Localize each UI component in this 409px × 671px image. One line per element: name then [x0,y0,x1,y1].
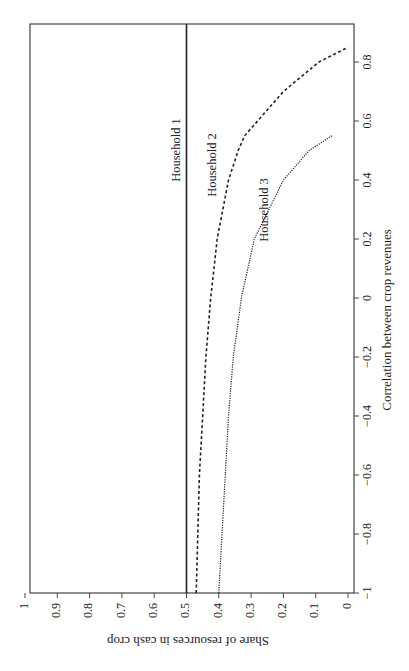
plot-frame [30,24,354,593]
share-tick-label: 0.8 [81,603,95,618]
share-tick-label: 0.6 [146,603,160,618]
series-label-household-3: Household 3 [257,178,271,242]
correlation-tick-label: −0.6 [360,464,374,486]
chart: 00.10.20.30.40.50.60.70.80.91−1−0.8−0.6−… [0,0,409,671]
share-tick-label: 0.3 [243,603,257,618]
correlation-tick-label: 0.4 [360,173,374,188]
y-axis-label: Share of resources in cash crop [107,634,269,649]
series-line-household-3 [219,136,332,593]
series-label-household-1: Household 1 [169,118,183,182]
correlation-tick-label: 0.6 [360,114,374,129]
share-tick-label: 0 [340,603,354,609]
share-tick-label: 0.1 [307,603,321,618]
correlation-tick-label: −0.2 [360,346,374,368]
correlation-tick-label: −1 [360,587,374,600]
share-tick-label: 0.4 [211,603,225,618]
x-axis-label: Correlation between crop revenues [379,229,394,411]
share-tick-label: 0.2 [275,603,289,618]
correlation-tick-label: 0.2 [360,232,374,247]
series-line-household-2 [196,47,348,593]
correlation-tick-label: 0.8 [360,55,374,70]
series-label-household-2: Household 2 [205,133,219,197]
share-tick-label: 1 [17,603,31,609]
share-tick-label: 0.9 [49,603,63,618]
correlation-tick-label: 0 [360,295,374,301]
correlation-tick-label: −0.4 [360,405,374,427]
share-tick-label: 0.5 [178,603,192,618]
correlation-tick-label: −0.8 [360,523,374,545]
share-tick-label: 0.7 [114,603,128,618]
